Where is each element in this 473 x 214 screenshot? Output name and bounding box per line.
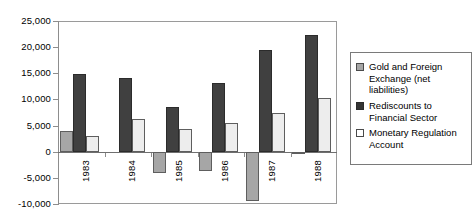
legend-label: Gold and Foreign Exchange (net liabiliti… — [369, 61, 469, 96]
legend-item[interactable]: Rediscounts to Financial Sector — [356, 100, 469, 123]
bar — [132, 119, 145, 151]
y-axis-label: -5,000 — [1, 173, 51, 183]
y-axis-label: 0 — [1, 147, 51, 157]
x-axis-label: 1983 — [80, 160, 91, 182]
legend-swatch-icon — [356, 63, 364, 71]
legend: Gold and Foreign Exchange (net liabiliti… — [350, 52, 472, 165]
legend-swatch-icon — [356, 102, 364, 110]
legend-swatch-icon — [356, 129, 364, 137]
bar — [73, 74, 86, 152]
bar — [153, 152, 166, 173]
x-axis-label: 1985 — [173, 160, 184, 182]
bar — [259, 50, 272, 151]
x-axis-tick — [105, 153, 106, 157]
x-axis-label: 1988 — [312, 160, 323, 182]
x-axis-label: 1987 — [266, 160, 277, 182]
legend-item[interactable]: Monetary Regulation Account — [356, 127, 469, 150]
x-axis-tick — [198, 153, 199, 157]
y-axis-label: 5,000 — [1, 121, 51, 131]
bar — [86, 136, 99, 152]
y-axis-label: 10,000 — [1, 94, 51, 104]
legend-item[interactable]: Gold and Foreign Exchange (net liabiliti… — [356, 61, 469, 96]
x-axis-label: 1986 — [219, 160, 230, 182]
bar-chart: 25,00020,00015,00010,0005,0000-5,000-10,… — [0, 0, 473, 214]
bar — [212, 83, 225, 151]
bar — [60, 131, 73, 152]
bar — [119, 78, 132, 152]
y-axis-label: 15,000 — [1, 68, 51, 78]
bar — [166, 107, 179, 152]
bar — [292, 152, 305, 154]
y-axis-label: -10,000 — [1, 199, 51, 209]
y-axis-label: 25,000 — [1, 16, 51, 26]
bar — [305, 35, 318, 152]
bar — [318, 98, 331, 152]
bar — [272, 113, 285, 152]
x-axis-tick — [151, 153, 152, 157]
bar — [199, 152, 212, 171]
x-axis-tick — [291, 153, 292, 157]
y-axis-label: 20,000 — [1, 42, 51, 52]
legend-label: Rediscounts to Financial Sector — [369, 100, 469, 123]
bar — [225, 123, 238, 151]
x-axis-tick — [244, 153, 245, 157]
legend-label: Monetary Regulation Account — [369, 127, 469, 150]
plot-area — [58, 21, 337, 204]
y-axis-line — [58, 21, 59, 205]
bar — [246, 152, 259, 201]
x-axis-label: 1984 — [126, 160, 137, 182]
bar — [179, 129, 192, 151]
